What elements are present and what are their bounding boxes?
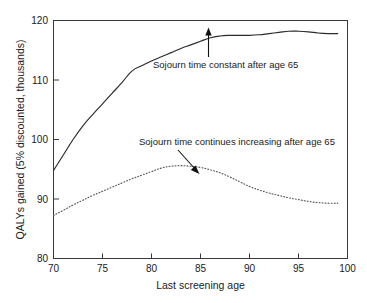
x-tick-label-90: 90 <box>244 263 256 274</box>
annotation-arrow-line-2 <box>178 150 196 170</box>
x-axis-title: Last screening age <box>156 279 245 291</box>
y-axis-ticks <box>54 21 60 259</box>
y-axis-title: QALYs gained (5% discounted, thousands) <box>14 39 26 239</box>
x-tick-label-85: 85 <box>195 263 207 274</box>
x-tick-label-80: 80 <box>146 263 158 274</box>
y-tick-label-120: 120 <box>31 15 48 26</box>
x-axis-tick-labels: 70 75 80 85 90 95 100 <box>48 263 356 274</box>
y-tick-label-110: 110 <box>32 75 48 86</box>
series-line-sojourn-increasing <box>54 166 338 216</box>
y-tick-label-80: 80 <box>37 253 49 264</box>
y-tick-label-90: 90 <box>37 194 49 205</box>
x-tick-label-100: 100 <box>339 263 356 274</box>
x-tick-label-95: 95 <box>293 263 305 274</box>
x-tick-label-70: 70 <box>48 263 60 274</box>
annotation-arrow-head-2 <box>191 166 200 175</box>
x-tick-label-75: 75 <box>97 263 109 274</box>
chart-canvas: 120 110 100 90 80 70 75 80 85 90 95 100 … <box>0 0 367 303</box>
annotation-label-sojourn-increasing: Sojourn time continues increasing after … <box>139 136 335 147</box>
y-tick-label-100: 100 <box>31 134 48 145</box>
series-line-sojourn-constant <box>54 31 338 170</box>
annotation-arrow-head-1 <box>205 28 211 36</box>
annotation-sojourn-constant: Sojourn time constant after age 65 <box>153 28 298 71</box>
y-axis-tick-labels: 120 110 100 90 80 <box>31 15 48 264</box>
annotation-sojourn-increasing: Sojourn time continues increasing after … <box>139 136 335 174</box>
x-axis-ticks <box>54 254 348 259</box>
annotation-label-sojourn-constant: Sojourn time constant after age 65 <box>153 59 298 70</box>
chart-figure: 120 110 100 90 80 70 75 80 85 90 95 100 … <box>0 0 367 303</box>
